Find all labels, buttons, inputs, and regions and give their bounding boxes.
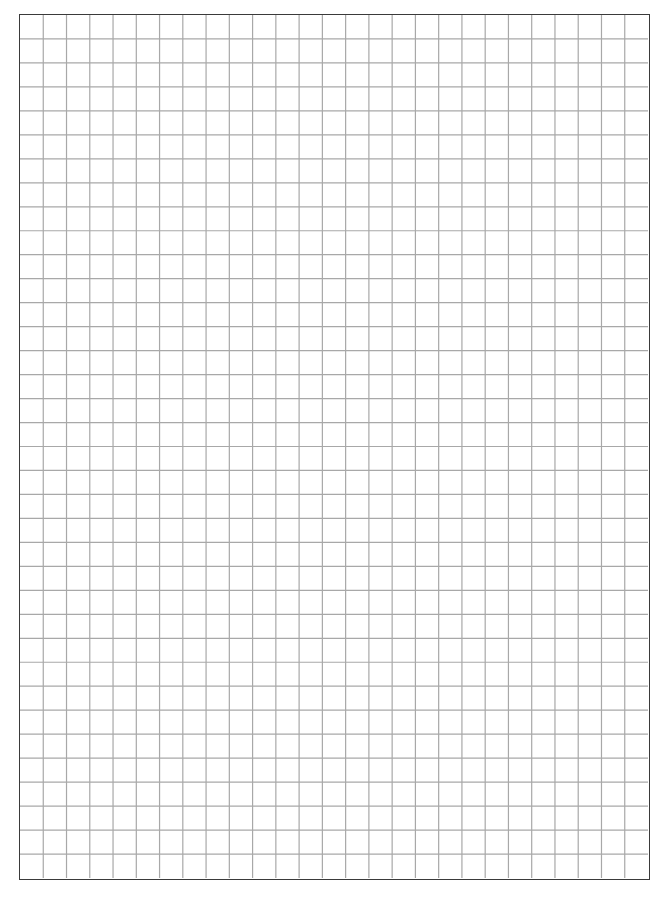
graph-paper-grid (19, 14, 650, 880)
grid-lines (20, 15, 648, 878)
